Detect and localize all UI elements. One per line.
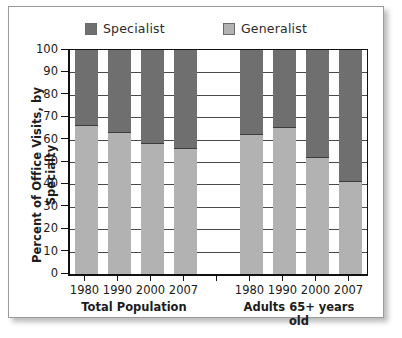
bar-slot — [268, 50, 301, 274]
y-axis-tick-mark — [61, 273, 68, 274]
x-axis-tick — [167, 275, 200, 282]
x-axis-tick-mark — [249, 275, 250, 281]
stacked-bar[interactable] — [306, 50, 328, 274]
x-axis-label: 1990 — [266, 283, 299, 297]
y-axis-tick-mark — [61, 49, 68, 50]
legend-swatch-specialist — [85, 23, 97, 35]
x-axis-tick-mark — [183, 275, 184, 281]
chart-legend: Specialist Generalist — [9, 21, 383, 36]
legend-item-specialist: Specialist — [85, 21, 165, 36]
bar-segment-generalist[interactable] — [240, 135, 262, 274]
bar-slot — [70, 50, 103, 274]
stacked-bar[interactable] — [339, 50, 361, 274]
y-axis-tick-label: 60 — [43, 131, 58, 145]
x-axis-tick — [200, 275, 233, 282]
bar-segment-generalist[interactable] — [75, 126, 97, 274]
stacked-bar[interactable] — [141, 50, 163, 274]
y-axis-tick-label: 10 — [43, 243, 58, 257]
y-axis-tick-label: 50 — [43, 154, 58, 168]
bar-segment-specialist[interactable] — [306, 50, 328, 158]
x-axis-group-label: Total Population — [68, 300, 200, 328]
bar-segment-generalist[interactable] — [273, 128, 295, 274]
legend-label-specialist: Specialist — [103, 21, 165, 36]
bar-segment-specialist[interactable] — [174, 50, 196, 149]
bar-segment-generalist[interactable] — [108, 133, 130, 274]
bar-segment-generalist[interactable] — [174, 149, 196, 274]
x-axis-tick-mark — [84, 275, 85, 281]
bar-segment-generalist[interactable] — [306, 158, 328, 274]
y-axis-tick-label: 20 — [43, 221, 58, 235]
legend-swatch-generalist — [223, 23, 235, 35]
y-axis-tick-mark — [61, 138, 68, 139]
bar-segment-specialist[interactable] — [108, 50, 130, 133]
x-axis-label: 2000 — [134, 283, 167, 297]
y-axis-tick-mark — [61, 161, 68, 162]
stacked-bar[interactable] — [108, 50, 130, 274]
x-axis-label: 2000 — [299, 283, 332, 297]
x-axis-tick-mark — [216, 275, 217, 281]
y-axis-tick-label: 70 — [43, 109, 58, 123]
bar-segment-specialist[interactable] — [141, 50, 163, 144]
y-axis-tick-label: 100 — [36, 42, 58, 56]
x-axis-tick — [101, 275, 134, 282]
y-axis-ticks: 1009080706050403020100 — [9, 49, 68, 273]
bar-slot — [136, 50, 169, 274]
x-axis-tick-mark — [282, 275, 283, 281]
x-axis-label: 1980 — [68, 283, 101, 297]
bar-slot-empty — [202, 50, 235, 274]
y-axis-tick-label: 90 — [43, 64, 58, 78]
y-axis-tick-mark — [61, 228, 68, 229]
x-axis-labels: 19801990200020071980199020002007 — [68, 283, 365, 297]
x-axis-label: 1990 — [101, 283, 134, 297]
x-axis-tick-mark — [315, 275, 316, 281]
bar-segment-specialist[interactable] — [273, 50, 295, 128]
y-axis-tick-mark — [61, 183, 68, 184]
x-axis-group-labels: Total PopulationAdults 65+ years old — [68, 300, 365, 328]
x-axis-tick — [266, 275, 299, 282]
bar-slot — [103, 50, 136, 274]
chart-figure: Specialist Generalist Percent of Office … — [8, 6, 384, 318]
x-axis-label-empty — [200, 283, 233, 297]
x-axis-label: 1980 — [233, 283, 266, 297]
stacked-bar[interactable] — [273, 50, 295, 274]
plot-area — [68, 49, 368, 276]
y-axis-tick-label: 30 — [43, 198, 58, 212]
bar-slot — [301, 50, 334, 274]
bar-segment-specialist[interactable] — [75, 50, 97, 126]
y-axis-tick-mark — [61, 93, 68, 94]
x-axis-tick-mark — [150, 275, 151, 281]
x-axis-group-label: Adults 65+ years old — [233, 300, 365, 328]
x-axis-tick — [134, 275, 167, 282]
bar-segment-specialist[interactable] — [240, 50, 262, 135]
stacked-bar[interactable] — [75, 50, 97, 274]
x-axis-tick — [233, 275, 266, 282]
bar-segment-specialist[interactable] — [339, 50, 361, 182]
bar-segment-generalist[interactable] — [339, 182, 361, 274]
x-axis-ticks — [68, 275, 365, 282]
bar-slot — [235, 50, 268, 274]
legend-item-generalist: Generalist — [223, 21, 307, 36]
y-axis-tick-label: 40 — [43, 176, 58, 190]
bar-series-container — [70, 50, 367, 274]
y-axis-tick-mark — [61, 116, 68, 117]
x-axis-tick-mark — [117, 275, 118, 281]
x-axis-tick — [332, 275, 365, 282]
legend-label-generalist: Generalist — [241, 21, 307, 36]
y-axis-tick-mark — [61, 71, 68, 72]
y-axis-tick-label: 0 — [51, 266, 58, 280]
bar-slot — [334, 50, 367, 274]
y-axis-tick-mark — [61, 250, 68, 251]
stacked-bar[interactable] — [174, 50, 196, 274]
stacked-bar[interactable] — [240, 50, 262, 274]
y-axis-tick-mark — [61, 205, 68, 206]
y-axis-tick-label: 80 — [43, 86, 58, 100]
x-axis-tick-mark — [348, 275, 349, 281]
x-axis-label: 2007 — [332, 283, 365, 297]
bar-slot — [169, 50, 202, 274]
x-axis-label: 2007 — [167, 283, 200, 297]
x-axis-tick — [68, 275, 101, 282]
bar-segment-generalist[interactable] — [141, 144, 163, 274]
x-axis-tick — [299, 275, 332, 282]
